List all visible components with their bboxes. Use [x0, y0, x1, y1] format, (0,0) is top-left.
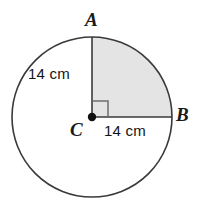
center-point-dot	[88, 113, 96, 121]
geometry-figure: A B C 14 cm 14 cm	[0, 0, 200, 218]
point-label-b: B	[176, 105, 189, 124]
circle-diagram-svg	[0, 0, 200, 218]
measurement-label-horizontal-radius: 14 cm	[104, 123, 146, 138]
measurement-label-vertical-radius: 14 cm	[28, 66, 70, 81]
point-label-a: A	[85, 10, 98, 29]
shaded-sector-region	[92, 37, 172, 117]
point-label-c: C	[70, 120, 83, 139]
